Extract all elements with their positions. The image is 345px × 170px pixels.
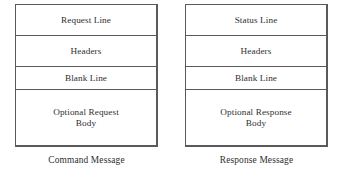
section-label: Request Line [61,15,111,26]
response-message-box: Status Line Headers Blank Line Optional … [185,4,328,147]
command-message-block: Request Line Headers Blank Line Optional… [15,4,158,147]
section-label: Blank Line [235,73,277,84]
command-message-box: Request Line Headers Blank Line Optional… [15,4,158,147]
section-optional-body: Optional Request Body [16,90,156,145]
section-headers: Headers [186,36,326,67]
section-headers: Headers [16,36,156,67]
section-label: Optional Request Body [53,107,119,129]
section-label: Headers [241,46,272,57]
section-blank-line: Blank Line [186,67,326,90]
section-label: Optional Response Body [220,107,291,129]
section-status-line: Status Line [186,5,326,36]
http-message-diagram: Request Line Headers Blank Line Optional… [0,0,345,170]
section-optional-body: Optional Response Body [186,90,326,145]
response-message-caption: Response Message [185,154,328,166]
command-message-caption: Command Message [15,154,158,166]
section-label: Status Line [235,15,278,26]
section-blank-line: Blank Line [16,67,156,90]
section-label: Headers [71,46,102,57]
section-label: Blank Line [65,73,107,84]
section-request-line: Request Line [16,5,156,36]
response-message-block: Status Line Headers Blank Line Optional … [185,4,328,147]
